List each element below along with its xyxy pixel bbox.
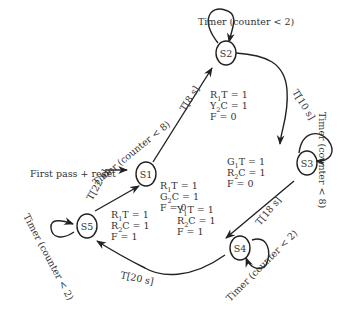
state-node-s2: S2 (216, 41, 236, 65)
state-label-s2: S2 (220, 48, 233, 59)
state-node-s1: S1 (136, 162, 156, 186)
output-s3-2: F = 0 (227, 178, 254, 189)
self-loop-label-s3: Timer (counter < 8) (317, 112, 328, 208)
edge-s4-s5 (97, 241, 225, 275)
state-node-s4: S4 (230, 236, 250, 260)
state-label-s4: S4 (234, 243, 247, 254)
edge-label-s4-s5: T[20 s] (120, 269, 155, 287)
edge-label-s1-s2: T[8 s] (177, 84, 201, 113)
edge-s5-s1 (95, 186, 139, 211)
edge-label-s2-s3: T[10 s] (290, 87, 317, 121)
state-label-s3: S3 (301, 158, 314, 169)
state-node-s5: S5 (77, 214, 97, 238)
state-node-s3: S3 (297, 151, 317, 175)
state-diagram: First pass + reset T[8 s] Timer (counter… (0, 0, 349, 319)
outputs-s4: Y1T = 1 R2C = 1 F = 1 (176, 204, 216, 237)
output-s4-2: F = 1 (177, 226, 204, 237)
state-label-s5: S5 (81, 221, 94, 232)
edge-s1-s2 (153, 68, 212, 162)
output-s2-2: F = 0 (210, 111, 237, 122)
self-loop-s5 (51, 221, 74, 237)
outputs-s2: R1T = 1 Y2C = 1 F = 0 (209, 89, 248, 122)
self-loop-label-s5: Timer (counter < 2) (21, 212, 76, 302)
outputs-s3: G1T = 1 R2C = 1 F = 0 (227, 156, 266, 189)
state-label-s1: S1 (140, 169, 153, 180)
edge-s3-s4 (226, 181, 294, 238)
outputs-s5: R1T = 1 R2C = 1 F = 1 (111, 209, 150, 242)
self-loop-label-s2: Timer (counter < 2) (198, 16, 294, 27)
output-s5-2: F = 1 (111, 231, 138, 242)
